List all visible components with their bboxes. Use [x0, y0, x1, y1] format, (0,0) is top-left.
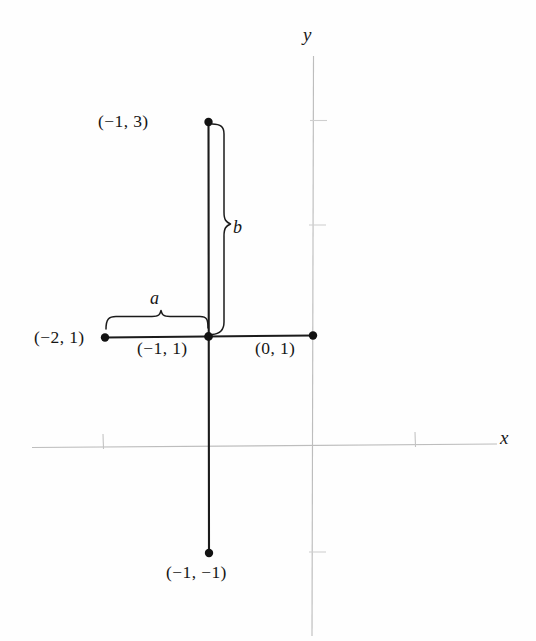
brace-a-shape: [106, 311, 208, 330]
brace-b-shape: [212, 124, 231, 335]
brace-label-b: b: [233, 217, 242, 238]
x-axis-label: x: [500, 427, 508, 449]
point-label-minus1-3: (−1, 3): [98, 111, 149, 132]
y-axis-line: [312, 56, 314, 636]
x-tick-plus1: [415, 432, 416, 447]
y-axis-label: y: [303, 24, 311, 46]
figure-canvas: [0, 0, 536, 641]
point-marker-n1-n1: [205, 549, 213, 557]
point-label-minus1-minus1: (−1, −1): [166, 562, 227, 583]
brace-label-a: a: [150, 288, 159, 309]
point-marker-n1-3: [204, 118, 212, 126]
point-marker-n1-1: [204, 332, 213, 341]
x-tick-minus2: [103, 434, 104, 449]
x-axis-line: [32, 444, 497, 448]
point-marker-0-1: [309, 331, 317, 339]
point-label-0-1: (0, 1): [255, 338, 295, 359]
point-marker-n2-1: [101, 333, 109, 341]
coordinate-plane-figure: (−1, 3) (−2, 1) (−1, 1) (0, 1) (−1, −1) …: [0, 0, 536, 641]
point-label-minus2-1: (−2, 1): [34, 327, 85, 348]
point-label-minus1-1: (−1, 1): [137, 338, 188, 359]
